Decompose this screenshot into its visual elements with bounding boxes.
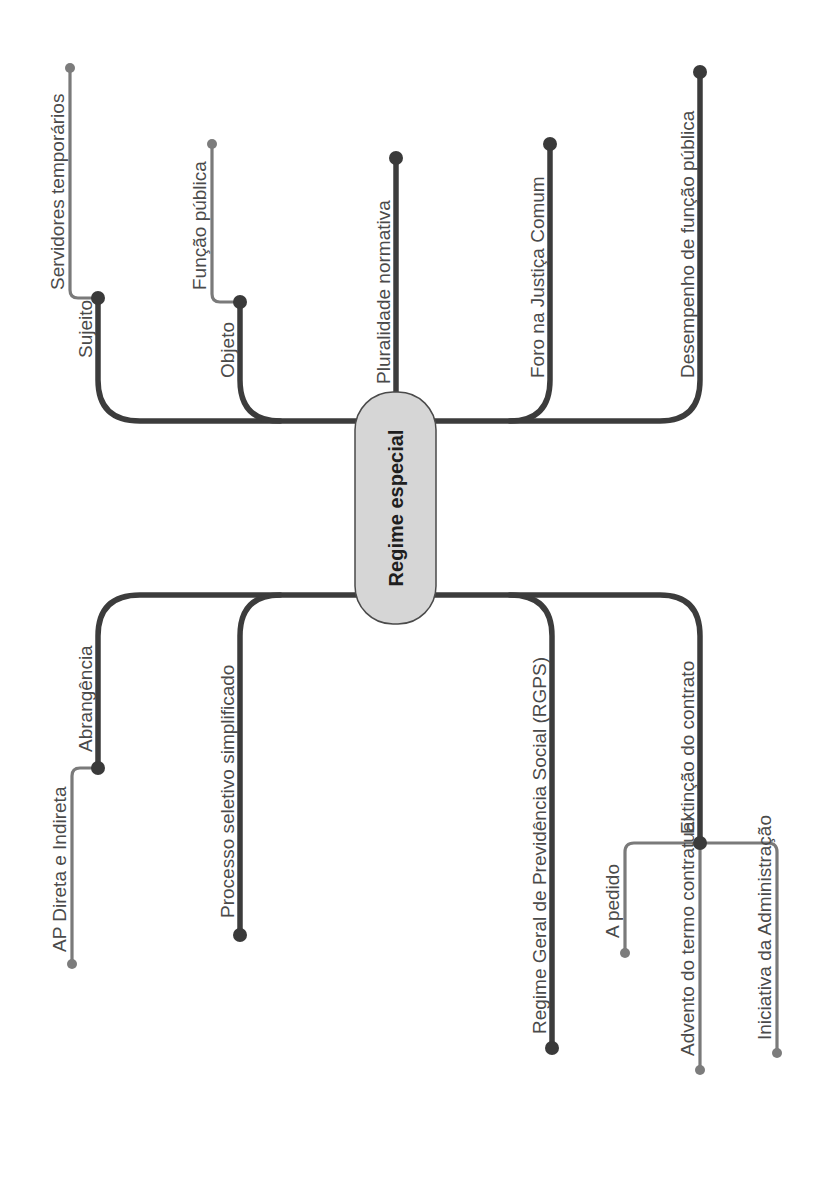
mind-map-canvas: Sujeito Servidores temporários Objeto Fu… bbox=[0, 0, 828, 1186]
branch-label-desempenho-funcao-publica: Desempenho de função pública bbox=[677, 110, 698, 378]
node-dot-icon bbox=[620, 948, 630, 958]
leaf-label-iniciativa-administracao: Iniciativa da Administração bbox=[754, 815, 775, 1040]
center-node: Regime especial bbox=[355, 392, 436, 624]
branch-label-extincao-do-contrato: Extinção do contrato bbox=[677, 661, 698, 834]
node-dot-icon bbox=[67, 959, 77, 969]
branch-label-rgps: Regime Geral de Previdência Social (RGPS… bbox=[529, 657, 550, 1034]
branch-label-abrangencia: Abrangência bbox=[75, 645, 96, 752]
leaf-label-funcao-publica: Função pública bbox=[189, 161, 210, 290]
node-dot-icon bbox=[772, 1048, 782, 1058]
branch-extincao-contrato: Extinção do contrato A pedido Advento do… bbox=[602, 661, 782, 1075]
node-dot-icon bbox=[65, 63, 75, 73]
node-dot-icon bbox=[233, 295, 247, 309]
node-dot-icon bbox=[389, 151, 403, 165]
node-dot-icon bbox=[543, 137, 557, 151]
leaf-label-a-pedido: A pedido bbox=[602, 864, 623, 938]
branch-label-foro-justica-comum: Foro na Justiça Comum bbox=[527, 176, 548, 378]
node-dot-icon bbox=[207, 139, 217, 149]
leaf-label-servidores-temporarios: Servidores temporários bbox=[47, 94, 68, 290]
node-dot-icon bbox=[695, 1065, 705, 1075]
leaf-label-advento-termo-contratual: Advento do termo contratual bbox=[677, 817, 698, 1056]
node-dot-icon bbox=[693, 65, 707, 79]
branch-label-processo-seletivo-simplificado: Processo seletivo simplificado bbox=[217, 665, 238, 918]
center-node-label: Regime especial bbox=[385, 430, 407, 587]
leaf-label-ap-direta-indireta: AP Direta e Indireta bbox=[49, 786, 70, 952]
bottom-trunk bbox=[98, 595, 700, 1048]
branch-label-objeto: Objeto bbox=[217, 322, 238, 378]
branch-label-sujeito: Sujeito bbox=[75, 300, 96, 358]
node-dot-icon bbox=[233, 928, 247, 942]
branch-label-pluralidade-normativa: Pluralidade normativa bbox=[373, 200, 394, 384]
node-dot-icon bbox=[91, 761, 105, 775]
node-dot-icon bbox=[545, 1041, 559, 1055]
